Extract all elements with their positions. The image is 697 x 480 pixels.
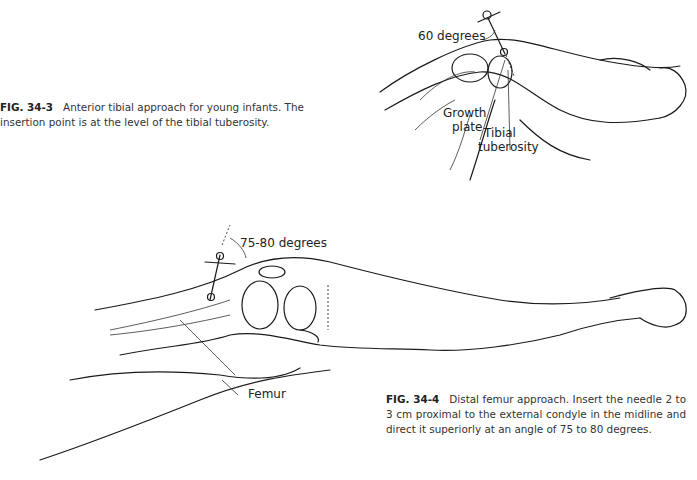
figure-number: FIG. 34-4: [386, 393, 439, 405]
needle-icon: [205, 253, 235, 301]
tibial-label-1: Tibial: [483, 126, 516, 140]
growth-plate-label-1: Growth: [443, 106, 486, 120]
figure-number: FIG. 34-3: [0, 101, 53, 113]
fig2-angle-label: 75-80 degrees: [240, 236, 327, 250]
femur-label: Femur: [248, 387, 286, 401]
fig1-angle-label: 60 degrees: [418, 29, 485, 43]
fig-34-3-illustration: 60 degrees Growth plate Tibial tuberosit…: [380, 11, 686, 180]
growth-plate-label-2: plate: [452, 120, 482, 134]
fig-34-4-caption: FIG. 34-4Distal femur approach. Insert t…: [386, 392, 686, 437]
tibial-label-2: tuberosity: [478, 140, 539, 154]
fig-34-3-caption: FIG. 34-3Anterior tibial approach for yo…: [0, 100, 352, 130]
